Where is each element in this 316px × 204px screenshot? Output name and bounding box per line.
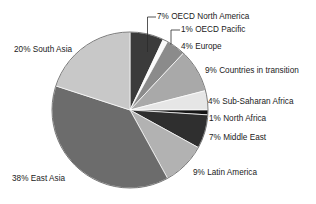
label-south-asia: 20% South Asia [14, 45, 68, 55]
pie-chart-figure: 7% OECD North America 1% OECD Pacific 4%… [0, 0, 316, 204]
label-sub-saharan-africa: 4% Sub-Saharan Africa [208, 97, 294, 107]
label-oecd-pacific: 1% OECD Pacific [181, 25, 245, 35]
label-countries-in-transition: 9% Countries in transition [205, 66, 299, 76]
label-middle-east: 7% Middle East [209, 133, 266, 143]
label-europe: 4% Europe [181, 42, 222, 52]
leader-line-oecd-pacific [171, 30, 180, 45]
label-latin-america: 9% Latin America [193, 168, 257, 178]
label-oecd-north-america: 7% OECD North America [157, 12, 249, 22]
cropped-title-remnant [108, 0, 130, 2]
label-north-africa: 1% North Africa [209, 114, 266, 124]
pie-slices [52, 32, 208, 188]
label-east-asia: 38% East Asia [12, 174, 65, 184]
